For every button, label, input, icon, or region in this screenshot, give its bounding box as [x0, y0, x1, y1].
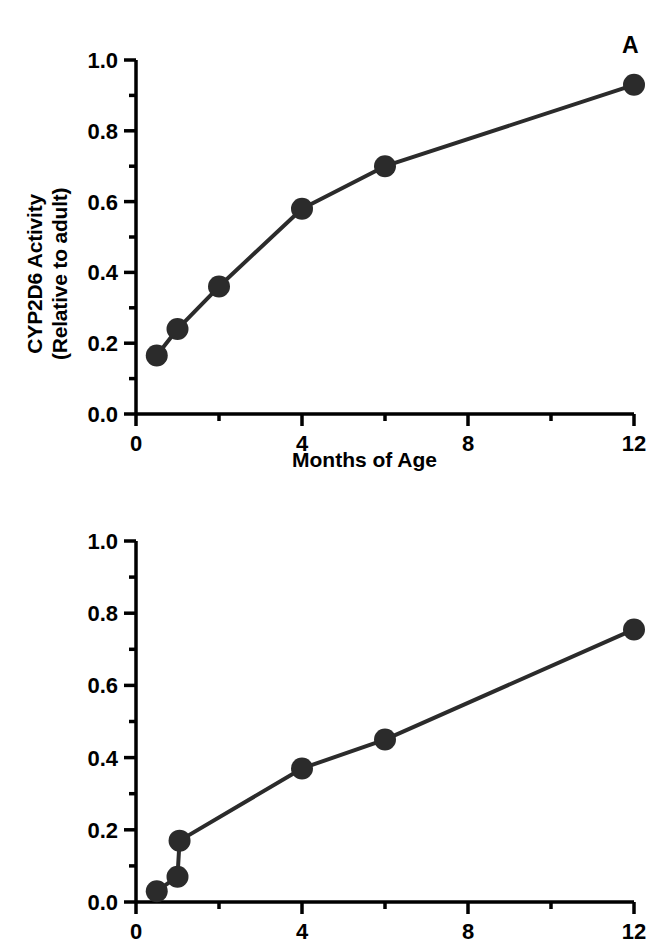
panel-a: 0.0 0.2 0.4 0.6 0.8 1.0 0 4 8 12 CYP2D6 … [0, 0, 669, 480]
data-point [146, 880, 168, 902]
y-tick-label: 0.4 [87, 746, 118, 771]
panel-a-y-axis-title-line1: CYP2D6 Activity [22, 188, 47, 360]
y-tick-label: 0.2 [87, 331, 118, 356]
y-tick-label: 0.4 [87, 260, 118, 285]
panel-a-plot: 0.0 0.2 0.4 0.6 0.8 1.0 0 4 8 12 [0, 0, 669, 480]
data-point [167, 318, 189, 340]
x-tick-label: 4 [296, 919, 309, 940]
data-point [374, 155, 396, 177]
panel-b-x-tick-labels: 0 4 8 12 [130, 919, 646, 940]
panel-a-data-markers [146, 74, 645, 367]
figure-cyp-ontogeny: 0.0 0.2 0.4 0.6 0.8 1.0 0 4 8 12 CYP2D6 … [0, 0, 669, 940]
data-point [146, 345, 168, 367]
panel-a-y-axis-title: CYP2D6 Activity (Relative to adult) [22, 188, 72, 360]
panel-b: 0.0 0.2 0.4 0.6 0.8 1.0 0 4 8 12 CYP3A4 … [0, 480, 669, 940]
panel-b-data-markers [146, 618, 645, 902]
y-tick-label: 0.0 [87, 402, 118, 427]
panel-b-data-line [157, 629, 634, 891]
data-point [167, 866, 189, 888]
y-tick-label: 0.0 [87, 890, 118, 915]
x-tick-label: 12 [622, 919, 646, 940]
data-point [291, 198, 313, 220]
y-tick-label: 1.0 [87, 48, 118, 73]
panel-a-data-line [157, 85, 634, 356]
y-tick-label: 0.6 [87, 190, 118, 215]
y-tick-label: 0.8 [87, 601, 118, 626]
panel-a-y-axis-title-line2: (Relative to adult) [47, 188, 72, 360]
panel-a-y-tick-labels: 0.0 0.2 0.4 0.6 0.8 1.0 [87, 48, 118, 427]
y-tick-label: 0.8 [87, 119, 118, 144]
panel-b-y-tick-labels: 0.0 0.2 0.4 0.6 0.8 1.0 [87, 529, 118, 915]
data-point [291, 757, 313, 779]
panel-a-axes [136, 60, 634, 414]
x-tick-label: 8 [462, 919, 474, 940]
data-point [208, 276, 230, 298]
x-tick-label: 0 [130, 919, 142, 940]
panel-a-letter: A [622, 32, 639, 59]
data-point [169, 830, 191, 852]
panel-a-x-axis-title: Months of Age [0, 448, 669, 472]
y-tick-label: 0.2 [87, 818, 118, 843]
data-point [623, 618, 645, 640]
panel-b-axes [136, 541, 634, 902]
panel-b-plot: 0.0 0.2 0.4 0.6 0.8 1.0 0 4 8 12 [0, 480, 669, 940]
y-tick-label: 1.0 [87, 529, 118, 554]
data-point [623, 74, 645, 96]
y-tick-label: 0.6 [87, 673, 118, 698]
data-point [374, 729, 396, 751]
